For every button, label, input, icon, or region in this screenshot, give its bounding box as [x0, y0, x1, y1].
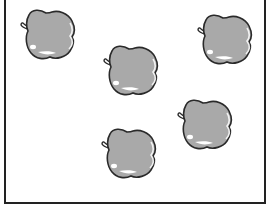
apple-icon	[195, 12, 255, 68]
apple-icon	[18, 7, 78, 63]
apple-icon	[99, 126, 159, 182]
apple-icon	[175, 97, 235, 153]
apple-icon	[101, 43, 161, 99]
